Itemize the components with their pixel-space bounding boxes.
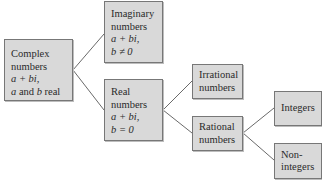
node-irrational-numbers: Irrational numbers: [192, 64, 243, 99]
edge-complex-imaginary: [73, 34, 104, 70]
node-formula: a + bi,: [111, 111, 158, 124]
node-label: numbers: [11, 61, 68, 74]
node-condition: b = 0: [111, 124, 158, 137]
node-formula: a + bi,: [111, 33, 158, 46]
node-label: numbers: [199, 82, 238, 95]
edge-real-rational: [163, 110, 192, 133]
node-label: Rational: [199, 121, 238, 134]
node-label: Non-: [281, 149, 317, 162]
text-and: and: [16, 86, 36, 97]
node-label: numbers: [111, 99, 158, 112]
node-label: Integers: [281, 102, 317, 115]
node-condition: b ≠ 0: [111, 46, 158, 59]
node-complex-numbers: Complex numbers a + bi, a and b real: [4, 39, 73, 101]
node-integers: Integers: [274, 91, 322, 126]
node-label: Irrational: [199, 69, 238, 82]
node-condition: a and b real: [11, 86, 68, 99]
node-real-numbers: Real numbers a + bi, b = 0: [104, 79, 163, 141]
node-non-integers: Non- integers: [274, 143, 322, 179]
node-formula: a + bi,: [11, 73, 68, 86]
node-label: Complex: [11, 48, 68, 61]
edge-complex-real: [73, 70, 104, 110]
node-label: numbers: [111, 21, 158, 34]
node-label: Real: [111, 86, 158, 99]
node-label: Imaginary: [111, 8, 158, 21]
edge-rational-integers: [243, 108, 274, 133]
text-real: real: [42, 86, 60, 97]
node-rational-numbers: Rational numbers: [192, 116, 243, 151]
node-imaginary-numbers: Imaginary numbers a + bi, b ≠ 0: [104, 1, 163, 63]
edge-real-irrational: [163, 81, 192, 110]
edge-rational-nonintegers: [243, 133, 274, 160]
node-label: numbers: [199, 134, 238, 147]
node-label: integers: [281, 161, 317, 174]
